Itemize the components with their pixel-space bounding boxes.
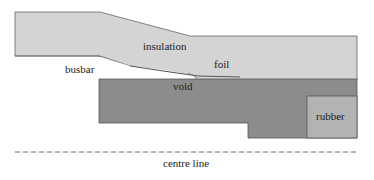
centre-line-label: centre line [163,157,209,169]
busbar-label: busbar [65,63,94,75]
insulation-label: insulation [143,40,186,52]
void-label: void [173,80,193,92]
rubber-label: rubber [316,110,345,122]
foil-label: foil [214,58,229,70]
